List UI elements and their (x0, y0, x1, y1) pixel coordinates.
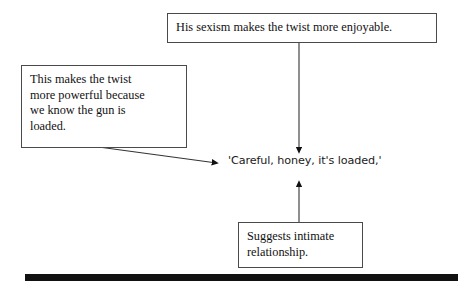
quoted-excerpt: 'Careful, honey, it's loaded,' (228, 154, 381, 168)
annotation-box-bottom[interactable]: Suggests intimate relationship. (238, 222, 363, 268)
arrow-diagonal-from-left-note (95, 147, 213, 163)
footer-rule (25, 274, 458, 281)
diagram-canvas: His sexism makes the twist more enjoyabl… (0, 0, 461, 287)
annotation-text-left: This makes the twist more powerful becau… (30, 72, 145, 134)
annotation-text-bottom: Suggests intimate relationship. (247, 229, 334, 260)
annotation-box-left[interactable]: This makes the twist more powerful becau… (21, 65, 187, 148)
annotation-text-top: His sexism makes the twist more enjoyabl… (176, 20, 392, 36)
annotation-box-top[interactable]: His sexism makes the twist more enjoyabl… (167, 13, 437, 43)
